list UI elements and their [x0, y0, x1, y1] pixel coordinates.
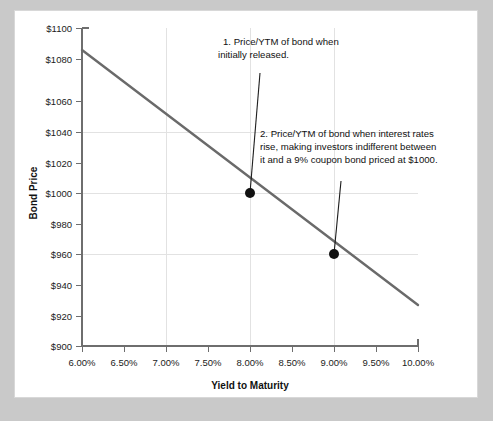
y-axis-title: Bond Price: [28, 166, 39, 219]
x-axis-title: Yield to Maturity: [211, 380, 289, 391]
bond-price-yield-chart: $1100 $1080 $1060 $1040 $1020 $1000 $980…: [15, 11, 477, 397]
x-tick-label-8-5pct: 8.50%: [279, 357, 306, 368]
y-tick-label-940: $940: [51, 280, 72, 291]
x-tick-label-9-5pct: 9.50%: [363, 357, 390, 368]
x-tick-label-7pct: 7.00%: [153, 357, 180, 368]
y-tick-label-1060: $1060: [46, 96, 72, 107]
y-tick-label-1100: $1100: [46, 23, 72, 34]
y-tick-label-920: $920: [51, 311, 72, 322]
y-tick-label-1020: $1020: [46, 158, 72, 169]
y-tick-label-1080: $1080: [46, 54, 72, 65]
x-tick-label-6pct: 6.00%: [69, 357, 96, 368]
annotation-1-line-2: initially released.: [218, 49, 289, 60]
chart-panel: $1100 $1080 $1060 $1040 $1020 $1000 $980…: [14, 10, 478, 398]
annotation-2-group: 2. Price/YTM of bond when interest rates…: [260, 128, 438, 254]
figure-root: $1100 $1080 $1060 $1040 $1020 $1000 $980…: [0, 0, 493, 421]
data-point-marker-2: [329, 249, 339, 259]
annotation-2-line-3: it and a 9% coupon bond priced at $1000.: [260, 154, 438, 165]
x-tick-label-7-5pct: 7.50%: [195, 357, 222, 368]
x-tick-labels: 6.00% 6.50% 7.00% 7.50% 8.00% 8.50% 9.00…: [69, 357, 435, 368]
x-tick-label-9pct: 9.00%: [321, 357, 348, 368]
data-point-marker-1: [245, 188, 255, 198]
y-axis: [76, 28, 89, 346]
y-tick-label-900: $900: [51, 341, 72, 352]
annotation-1-leader-line: [250, 73, 260, 193]
annotation-1-line-1: 1. Price/YTM of bond when: [223, 36, 339, 47]
annotation-1-group: 1. Price/YTM of bond when initially rele…: [218, 36, 339, 193]
x-tick-label-10pct: 10.00%: [402, 357, 435, 368]
y-tick-label-1000: $1000: [46, 188, 72, 199]
y-tick-label-960: $960: [51, 249, 72, 260]
y-tick-labels: $1100 $1080 $1060 $1040 $1020 $1000 $980…: [46, 23, 72, 352]
x-tick-label-8pct: 8.00%: [237, 357, 264, 368]
x-tick-label-6-5pct: 6.50%: [111, 357, 138, 368]
annotation-2-line-1: 2. Price/YTM of bond when interest rates: [260, 128, 434, 139]
annotation-2-line-2: rise, making investors indifferent betwe…: [260, 141, 436, 152]
y-tick-label-1040: $1040: [46, 127, 72, 138]
y-tick-label-980: $980: [51, 219, 72, 230]
